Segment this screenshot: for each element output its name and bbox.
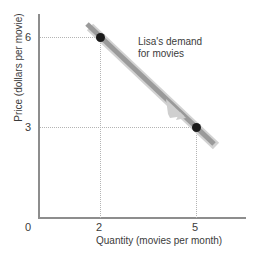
direction-arrowhead-icon: [176, 112, 186, 120]
guide-line-price-3: [40, 127, 197, 128]
guide-line-price-6: [40, 37, 101, 38]
y-tick-label-6: 6: [25, 31, 31, 43]
x-tick-label-2: 2: [96, 221, 102, 233]
demand-curve-chart: 6 3 0 2 5 Price (dollars per movie) Quan…: [0, 0, 263, 256]
annotation-line-2: for movies: [138, 48, 202, 60]
x-tick-label-5: 5: [192, 221, 198, 233]
guide-line-quantity-5: [196, 127, 197, 218]
x-axis-title: Quantity (movies per month): [96, 235, 222, 246]
annotation-line-1: Lisa's demand: [138, 36, 202, 48]
data-point-2-6: [96, 33, 105, 42]
data-point-5-3: [192, 123, 201, 132]
demand-curve-annotation: Lisa's demand for movies: [138, 36, 202, 60]
guide-line-quantity-2: [100, 37, 101, 218]
x-axis-line: [38, 217, 246, 219]
origin-label: 0: [25, 221, 31, 233]
y-axis-title: Price (dollars per movie): [13, 8, 24, 128]
y-tick-label-3: 3: [25, 121, 31, 133]
y-axis-line: [38, 14, 40, 219]
direction-arrow-icon: [166, 99, 184, 118]
